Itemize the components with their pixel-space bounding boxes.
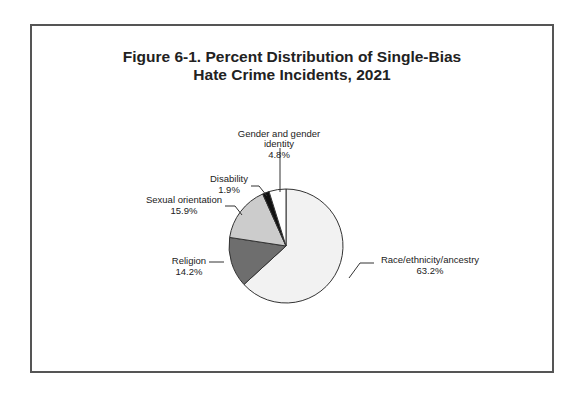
label-disability-name: Disability [210, 173, 248, 184]
pie-slices [229, 189, 343, 303]
label-race-name: Race/ethnicity/ancestry [381, 254, 479, 265]
label-religion-name: Religion [172, 255, 206, 266]
label-sexual-orientation-name: Sexual orientation [146, 194, 222, 205]
label-religion-pct: 14.2% [176, 266, 203, 277]
label-sexual-orientation-pct: 15.9% [171, 205, 198, 216]
label-race-pct: 63.2% [417, 265, 444, 276]
pie-chart: Gender and gender identity 4.8% Disabili… [0, 0, 584, 395]
label-gender-name-2: identity [264, 138, 294, 149]
label-gender-pct: 4.8% [268, 149, 290, 160]
